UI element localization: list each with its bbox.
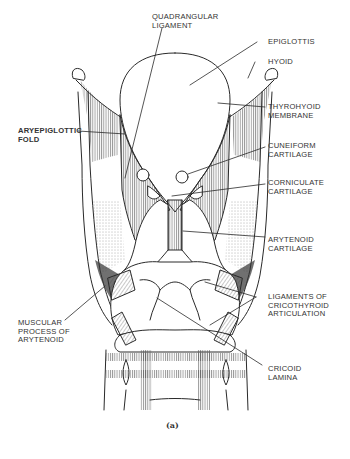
label-line: ARYTENOID [18, 336, 70, 345]
hyoid-right [265, 68, 278, 80]
label-line: ARTICULATION [268, 310, 329, 319]
label-line: CARTILAGE [268, 245, 314, 254]
label-hyoid: HYOID [268, 58, 293, 67]
label-cuneiform-cartilage: CUNEIFORM CARTILAGE [268, 142, 316, 159]
cuneiform-cartilage-right [176, 171, 188, 183]
label-epiglottis: EPIGLOTTIS [268, 38, 315, 47]
label-line: LIGAMENT [152, 22, 219, 31]
figure-caption: (a) [166, 420, 179, 430]
label-line: CARTILAGE [268, 188, 324, 197]
label-line: CARTILAGE [268, 151, 316, 160]
label-corniculate-cartilage: CORNICULATE CARTILAGE [268, 179, 324, 196]
label-line: LAMINA [268, 374, 301, 383]
cuneiform-cartilage-left [137, 169, 149, 181]
larynx-diagram [0, 0, 350, 459]
trachea [104, 350, 248, 410]
label-ligaments-cricothyroid: LIGAMENTS OF CRICOTHYROID ARTICULATION [268, 293, 329, 319]
hyoid-left [72, 68, 85, 80]
label-aryepiglottic-fold: ARYEPIGLOTTIC FOLD [18, 127, 82, 144]
thyrohyoid-membrane-left [80, 80, 120, 162]
label-quadrangular-ligament: QUADRANGULAR LIGAMENT [152, 13, 219, 30]
label-arytenoid-cartilage: ARYTENOID CARTILAGE [268, 236, 314, 253]
label-line: FOLD [18, 136, 82, 145]
label-thyrohyoid-membrane: THYROHYOID MEMBRANE [268, 103, 321, 120]
label-muscular-process: MUSCULAR PROCESS OF ARYTENOID [18, 319, 70, 345]
interarytenoid-muscle [168, 200, 182, 250]
label-line: EPIGLOTTIS [268, 38, 315, 47]
label-line: HYOID [268, 58, 293, 67]
thyrohyoid-membrane-right [232, 80, 272, 162]
label-cricoid-lamina: CRICOID LAMINA [268, 365, 301, 382]
label-line: MEMBRANE [268, 112, 321, 121]
